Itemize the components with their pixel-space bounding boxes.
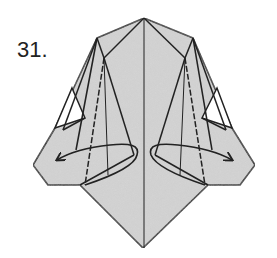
origami-diagram — [0, 0, 277, 258]
